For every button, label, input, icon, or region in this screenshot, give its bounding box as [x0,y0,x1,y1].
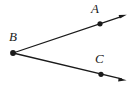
ray-bc-arrowhead [118,78,127,82]
point-label-a: A [91,2,99,15]
geometry-canvas [0,0,135,89]
ray-ba-line [13,16,122,53]
ray-ba-arrowhead [119,15,127,19]
geometry-figure: A B C [0,0,135,89]
point-b-dot [10,50,16,56]
point-a-dot [97,21,102,26]
point-c-dot [98,72,103,77]
ray-bc-line [13,53,122,79]
point-label-b: B [9,30,17,43]
point-label-c: C [95,52,104,65]
